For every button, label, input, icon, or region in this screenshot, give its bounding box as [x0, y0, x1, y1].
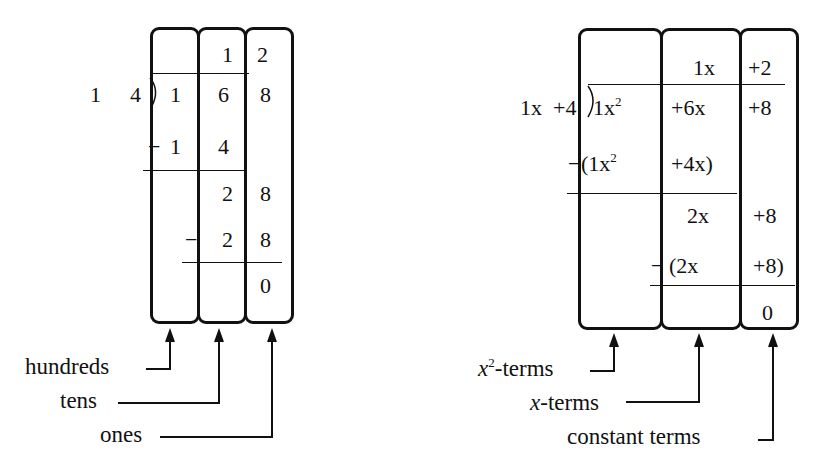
column-pointer-arrows: [0, 0, 826, 467]
